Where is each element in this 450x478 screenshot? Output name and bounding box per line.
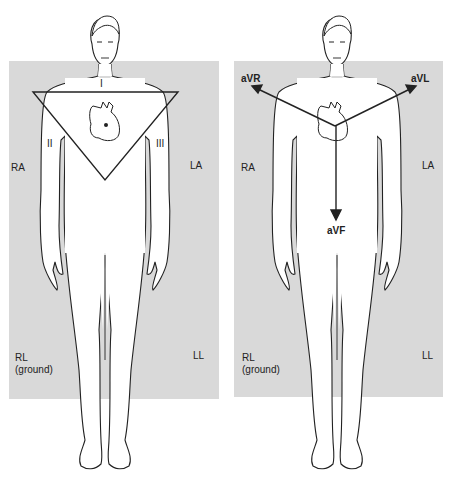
lead-II-label: II bbox=[47, 138, 53, 150]
lead-aVL-label: aVL bbox=[411, 73, 429, 85]
lead-aVF-label: aVF bbox=[327, 225, 345, 237]
body-outline-right bbox=[272, 16, 402, 469]
electrode-RL-left: RL bbox=[15, 352, 28, 364]
figures-drawing bbox=[0, 0, 450, 478]
electrode-LL-left: LL bbox=[193, 350, 204, 362]
ground-note-right: (ground) bbox=[242, 364, 280, 376]
lead-aVR-label: aVR bbox=[241, 73, 260, 85]
lead-I-label: I bbox=[100, 78, 103, 90]
heart-dot bbox=[104, 123, 108, 127]
ground-note-left: (ground) bbox=[15, 364, 53, 376]
body-outline-left bbox=[40, 16, 170, 469]
electrode-LA-right: LA bbox=[422, 160, 434, 172]
electrode-RA-right: RA bbox=[241, 162, 255, 174]
lead-III-label: III bbox=[156, 138, 164, 150]
electrode-LL-right: LL bbox=[422, 350, 433, 362]
electrode-RA-left: RA bbox=[11, 162, 25, 174]
electrode-RL-right: RL bbox=[242, 352, 255, 364]
electrode-LA-left: LA bbox=[190, 160, 202, 172]
